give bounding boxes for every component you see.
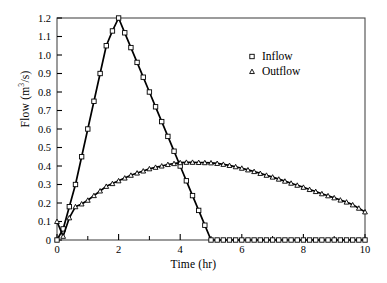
- square-marker: [250, 54, 254, 58]
- triangle-marker: [221, 162, 226, 166]
- series-line-outflow: [57, 162, 365, 236]
- square-marker: [258, 238, 262, 242]
- y-axis-label-prefix: Flow (m: [19, 87, 31, 128]
- square-marker: [196, 208, 200, 212]
- triangle-marker: [264, 173, 269, 177]
- plot-frame: [57, 18, 365, 240]
- triangle-marker: [307, 187, 312, 191]
- x-axis-tick-label: 8: [301, 244, 306, 255]
- square-marker: [73, 182, 77, 186]
- square-marker: [116, 16, 120, 20]
- square-marker: [129, 45, 133, 49]
- triangle-marker: [172, 161, 177, 165]
- y-axis-tick-label: 0.3: [38, 179, 51, 190]
- x-axis-tick-label: 2: [116, 244, 121, 255]
- square-marker: [98, 71, 102, 75]
- square-marker: [184, 179, 188, 183]
- square-marker: [86, 127, 90, 131]
- square-marker: [92, 99, 96, 103]
- chart-figure: 00.10.20.30.40.50.60.70.80.91.01.11.2024…: [0, 0, 387, 283]
- triangle-marker: [122, 176, 127, 180]
- square-marker: [55, 238, 59, 242]
- square-marker: [110, 29, 114, 33]
- square-marker: [326, 238, 330, 242]
- square-marker: [344, 238, 348, 242]
- square-marker: [79, 155, 83, 159]
- square-marker: [215, 238, 219, 242]
- y-axis-tick-label: 0.1: [38, 216, 51, 227]
- y-axis-tick-label: 0.6: [38, 124, 51, 135]
- square-marker: [301, 238, 305, 242]
- triangle-marker: [338, 198, 343, 202]
- triangle-marker: [209, 160, 214, 164]
- triangle-marker: [196, 160, 201, 164]
- legend-label-outflow: Outflow: [262, 65, 301, 77]
- y-axis-tick-label: 0.7: [38, 105, 51, 116]
- y-axis-label-suffix: /s): [19, 70, 31, 82]
- y-axis-label: Flow (m3/s): [17, 29, 31, 169]
- square-marker: [314, 238, 318, 242]
- x-axis-tick-label: 0: [54, 244, 59, 255]
- triangle-marker: [301, 185, 306, 189]
- x-axis-tick-label: 4: [178, 244, 184, 255]
- square-marker: [172, 149, 176, 153]
- triangle-marker: [184, 160, 189, 164]
- x-axis-tick-label: 6: [239, 244, 244, 255]
- y-axis-tick-label: 0.5: [38, 142, 51, 153]
- triangle-marker: [110, 181, 115, 185]
- triangle-marker: [270, 175, 275, 179]
- triangle-marker: [258, 171, 263, 175]
- series-line-inflow: [57, 18, 365, 240]
- triangle-marker: [289, 181, 294, 185]
- square-marker: [141, 75, 145, 79]
- triangle-marker: [233, 164, 238, 168]
- triangle-marker: [227, 163, 232, 167]
- triangle-marker: [215, 161, 220, 165]
- series-outflow: [55, 160, 368, 238]
- square-marker: [135, 60, 139, 64]
- square-marker: [332, 238, 336, 242]
- y-axis-tick-label: 0.8: [38, 87, 51, 98]
- triangle-marker: [141, 169, 146, 173]
- y-axis-tick-label: 1.0: [38, 50, 51, 61]
- triangle-marker: [135, 171, 140, 175]
- triangle-marker: [326, 193, 331, 197]
- square-marker: [338, 238, 342, 242]
- triangle-marker: [276, 177, 281, 181]
- square-marker: [295, 238, 299, 242]
- square-marker: [264, 238, 268, 242]
- y-axis-tick-label: 1.1: [38, 31, 51, 42]
- square-marker: [307, 238, 311, 242]
- y-axis-tick-label: 0.4: [38, 161, 52, 172]
- square-marker: [221, 238, 225, 242]
- triangle-marker: [283, 179, 288, 183]
- square-marker: [357, 238, 361, 242]
- triangle-marker: [246, 167, 251, 171]
- square-marker: [252, 238, 256, 242]
- triangle-marker: [239, 166, 244, 170]
- x-axis-tick-label: 10: [360, 244, 371, 255]
- x-axis-label: Time (hr): [0, 258, 387, 270]
- square-marker: [153, 105, 157, 109]
- square-marker: [246, 238, 250, 242]
- square-marker: [320, 238, 324, 242]
- legend-label-inflow: Inflow: [262, 50, 293, 62]
- triangle-marker: [73, 204, 78, 208]
- square-marker: [283, 238, 287, 242]
- triangle-marker: [319, 191, 324, 195]
- triangle-marker: [344, 200, 349, 204]
- y-axis-tick-label: 1.2: [38, 13, 51, 24]
- triangle-marker: [159, 164, 164, 168]
- square-marker: [203, 223, 207, 227]
- triangle-marker: [250, 69, 255, 73]
- triangle-marker: [202, 160, 207, 164]
- y-axis-label-exponent: 3: [17, 83, 26, 87]
- square-marker: [147, 90, 151, 94]
- square-marker: [233, 238, 237, 242]
- square-marker: [160, 119, 164, 123]
- triangle-marker: [332, 195, 337, 199]
- square-marker: [67, 205, 71, 209]
- triangle-marker: [252, 169, 257, 173]
- triangle-marker: [153, 165, 158, 169]
- triangle-marker: [190, 160, 195, 164]
